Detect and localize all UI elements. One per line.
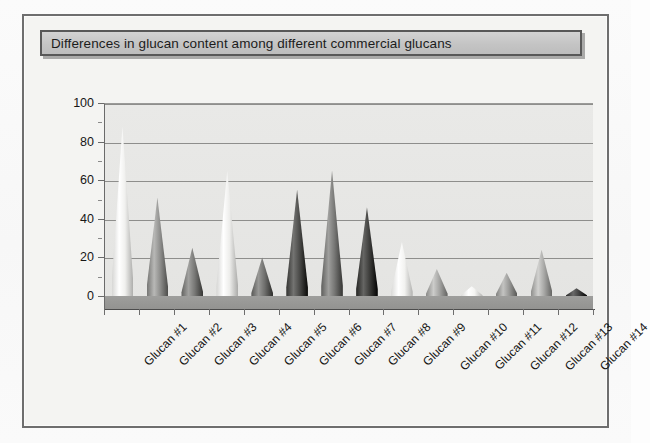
cone-bar [140,198,175,296]
y-tick-mark-minor [98,200,102,201]
cone-body [321,171,343,296]
x-axis-labels: Glucan #1Glucan #2Glucan #3Glucan #4Gluc… [62,318,594,412]
x-tick-mark [139,309,140,315]
cone-bar [559,288,594,296]
cone-body [461,286,483,296]
cone-body [181,248,203,296]
x-tick-mark [174,309,175,315]
cone-bar [489,273,524,296]
cone-bar [210,171,245,296]
cone-bar [315,171,350,296]
cone-bar [524,250,559,296]
x-tick-mark [453,309,454,315]
chart-title: Differences in glucan content among diff… [42,36,452,51]
cone-bar [454,286,489,296]
cone-body [251,257,273,296]
cone-body [147,198,169,296]
cone-bar [105,126,140,296]
y-tick-label: 80 [80,135,94,149]
x-tick-mark [523,309,524,315]
chart-floor [105,296,593,309]
x-tick-mark [209,309,210,315]
y-tick-mark-minor [98,277,102,278]
cone-body [356,207,378,296]
y-tick-label: 100 [73,96,94,110]
cone-bar [280,190,315,296]
x-tick-mark [104,309,105,315]
x-tick-mark [593,309,594,315]
chart-title-box: Differences in glucan content among diff… [40,30,582,56]
cone-body [112,126,134,296]
y-axis: 020406080100 [62,92,98,308]
y-tick-mark-minor [98,161,102,162]
x-tick-mark [349,309,350,315]
x-tick-mark [314,309,315,315]
x-tick-mark [418,309,419,315]
y-tick-label: 20 [80,250,94,264]
cone-body [566,288,588,296]
y-tick-label: 0 [87,289,94,303]
cone-body [496,273,518,296]
x-tick-mark [558,309,559,315]
cone-series [105,103,593,296]
cone-body [391,242,413,296]
cone-bar [419,269,454,296]
cone-body [426,269,448,296]
x-tick-mark [279,309,280,315]
plot-area-wrapper: 020406080100 Glucan #1Glucan #2Glucan #3… [62,92,594,412]
y-tick-mark-minor [98,122,102,123]
cone-bar [245,257,280,296]
plot-area [104,103,593,309]
x-tick-mark [244,309,245,315]
cone-bar [384,242,419,296]
cone-body [286,190,308,296]
y-tick-mark-minor [98,238,102,239]
cone-body [216,171,238,296]
chart-frame: Differences in glucan content among diff… [22,14,609,428]
x-axis-ticks [104,309,593,316]
x-tick-mark [383,309,384,315]
cone-bar [350,207,385,296]
y-tick-label: 60 [80,173,94,187]
cone-bar [175,248,210,296]
x-tick-mark [488,309,489,315]
y-tick-label: 40 [80,212,94,226]
cone-body [531,250,553,296]
